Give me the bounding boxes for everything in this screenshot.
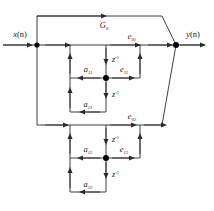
label-delay-4-sup: -1 [115,170,120,175]
label-a12: a12 [84,145,93,155]
label-e01-sub: 01 [132,37,137,42]
label-e11-sub: 11 [124,70,128,75]
label-a11-sub: 11 [88,70,92,75]
signal-flow-graph-figure: x(n) y(n) G0 e01 e11 a11 a21 e02 e12 a12… [0,0,214,211]
label-delay-2-sup: -1 [115,90,120,95]
label-delay-3: z-1 [111,135,120,144]
label-delay-1: z-1 [111,55,120,64]
flow-graph-canvas: x(n) y(n) G0 e01 e11 a11 a21 e02 e12 a12… [0,0,214,211]
label-a11: a11 [84,65,92,75]
label-a21-sub: 21 [88,105,93,110]
wire-g0-diagonal [162,16,176,45]
wire-e02-diagonal [162,45,176,125]
label-output: y(n) [185,30,200,39]
label-delay-3-sup: -1 [115,135,120,140]
node-output-sum [173,42,179,48]
label-e02-sub: 02 [132,117,137,122]
label-delay-4: z-1 [111,170,120,179]
label-g0-sub: 0 [106,26,109,31]
label-e01: e01 [128,32,136,42]
label-a12-sub: 12 [88,150,93,155]
node-input-split [34,42,39,47]
label-e02: e02 [128,112,137,122]
label-input: x(n) [12,30,27,39]
label-input-arg: (n) [17,30,27,39]
label-a22: a22 [84,180,93,190]
label-e12-sub: 12 [124,150,129,155]
label-delay-2: z-1 [111,90,120,99]
label-e11: e11 [120,65,128,75]
label-a22-sub: 22 [88,185,93,190]
label-e12: e12 [120,145,129,155]
node-stage2-sum [103,155,109,161]
label-g0: G0 [100,21,109,31]
label-delay-1-sup: -1 [115,55,120,60]
node-stage1-sum [103,75,109,81]
graph-nodes [34,42,179,161]
label-a21: a21 [84,100,93,110]
label-output-arg: (n) [190,30,200,39]
